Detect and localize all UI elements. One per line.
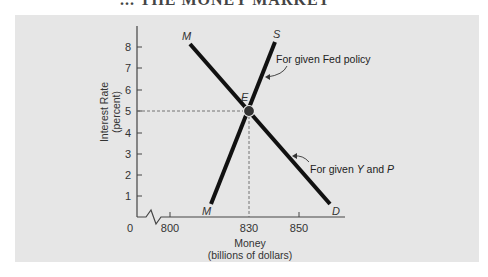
y-tick-4: 4 xyxy=(125,127,131,139)
y-tick-7: 7 xyxy=(125,62,131,74)
supply-top-label: S xyxy=(273,28,281,40)
x-tick-origin: 0 xyxy=(127,222,133,234)
supply-bottom-label: M xyxy=(202,205,212,217)
y-tick-5: 5 xyxy=(125,105,131,117)
fed-policy-annotation: For given Fed policy xyxy=(276,53,371,65)
yp-annotation: For given Y and P xyxy=(310,163,394,175)
y-tick-3: 3 xyxy=(125,148,131,160)
equilibrium-label: E xyxy=(241,91,249,103)
money-supply-curve xyxy=(211,42,275,204)
x-axis-subtitle: (billions of dollars) xyxy=(208,249,293,261)
fed-policy-arrowhead-icon xyxy=(265,74,270,80)
x-tick-800: 800 xyxy=(161,222,179,234)
x-axis: 0 800 830 850 xyxy=(127,210,345,234)
money-market-chart: 1 2 3 4 5 6 7 8 0 800 830 850 Money (bil… xyxy=(0,0,488,277)
y-axis: 1 2 3 4 5 6 7 8 xyxy=(125,26,142,217)
y-axis-subtitle: (percent) xyxy=(110,91,122,133)
y-tick-2: 2 xyxy=(125,169,131,181)
demand-bottom-label: D xyxy=(332,205,340,217)
equilibrium-point xyxy=(244,106,255,117)
y-tick-8: 8 xyxy=(125,41,131,53)
y-tick-6: 6 xyxy=(125,84,131,96)
demand-top-label: M xyxy=(182,30,192,42)
x-axis-title: Money xyxy=(234,237,266,249)
money-demand-curve xyxy=(190,44,330,204)
x-tick-830: 830 xyxy=(240,222,258,234)
yp-arrowhead-icon xyxy=(292,153,297,159)
y-tick-1: 1 xyxy=(125,190,131,202)
y-axis-title: Interest Rate xyxy=(98,82,110,142)
x-tick-850: 850 xyxy=(290,222,308,234)
